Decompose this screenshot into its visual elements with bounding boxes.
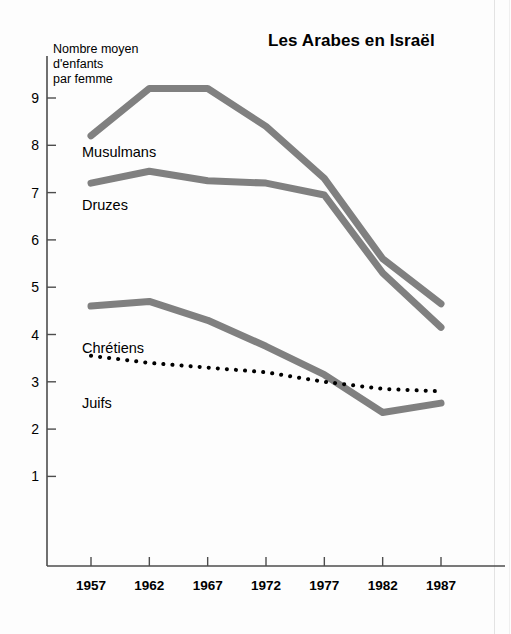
y-axis-tick-label: 8	[17, 137, 39, 153]
y-axis-tick-label: 2	[17, 421, 39, 437]
chart-title: Les Arabes en Israël	[268, 31, 435, 51]
series-label-musulmans: Musulmans	[82, 144, 156, 160]
chart-plot-area	[0, 0, 511, 634]
chart-page: Fécondité et confessions Les Arabes en I…	[0, 0, 511, 634]
y-axis-tick-label: 3	[17, 374, 39, 390]
series-line-musulmans	[91, 89, 441, 304]
x-axis-tick-label: 1972	[251, 578, 281, 593]
y-axis-tick-label: 5	[17, 279, 39, 295]
x-axis-tick-label: 1967	[193, 578, 223, 593]
x-axis-tick-label: 1977	[309, 578, 339, 593]
y-axis-caption-line-3: par femme	[53, 72, 138, 87]
series-line-juifs	[91, 356, 441, 392]
y-axis-caption-line-1: Nombre moyen	[53, 42, 138, 57]
headline-crop-mask	[0, 0, 511, 4]
y-axis-caption: Nombre moyen d'enfants par femme	[53, 42, 138, 87]
series-label-chretiens: Chrétiens	[82, 340, 144, 356]
y-axis-tick-label: 1	[17, 468, 39, 484]
series-label-juifs: Juifs	[82, 395, 112, 411]
page-column-edge	[494, 0, 495, 634]
y-axis-tick-label: 4	[17, 327, 39, 343]
y-axis-tick-label: 9	[17, 90, 39, 106]
page-outer-edge	[509, 0, 510, 634]
x-axis-tick-label: 1957	[76, 578, 106, 593]
y-axis-tick-label: 6	[17, 232, 39, 248]
series-label-druzes: Druzes	[82, 197, 128, 213]
series-line-chretiens	[91, 301, 441, 412]
y-axis-tick-label: 7	[17, 185, 39, 201]
series-line-druzes	[91, 171, 441, 327]
y-axis-caption-line-2: d'enfants	[53, 57, 138, 72]
x-axis-tick-label: 1982	[368, 578, 398, 593]
x-axis-tick-label: 1987	[426, 578, 456, 593]
x-axis-tick-label: 1962	[134, 578, 164, 593]
